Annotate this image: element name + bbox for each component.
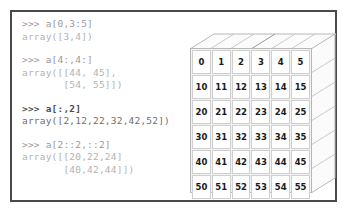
array-cell: 10 bbox=[192, 75, 211, 99]
array-cell: 24 bbox=[271, 100, 290, 124]
array-cell: 35 bbox=[291, 125, 310, 149]
array-cell: 23 bbox=[251, 100, 270, 124]
console-prompt-line: >>> a[0,3:5] bbox=[22, 18, 197, 31]
console-block: >>> a[0,3:5]array([3,4]) bbox=[22, 18, 197, 43]
console-transcript: >>> a[0,3:5]array([3,4])>>> a[4:,4:]arra… bbox=[22, 18, 197, 196]
array-cell: 45 bbox=[291, 150, 310, 174]
array-cell: 41 bbox=[212, 150, 231, 174]
array-cell: 0 bbox=[192, 50, 211, 74]
array-cell: 31 bbox=[212, 125, 231, 149]
array-cell: 5 bbox=[291, 50, 310, 74]
console-block: >>> a[:,2]array([2,12,22,32,42,52]) bbox=[22, 103, 197, 128]
array-cell: 21 bbox=[212, 100, 231, 124]
array-cell: 54 bbox=[271, 175, 290, 199]
console-prompt-line: >>> a[4:,4:] bbox=[22, 54, 197, 67]
console-block: >>> a[2::2,::2]array([[20,22,24] [40,42,… bbox=[22, 139, 197, 177]
console-output-line: [54, 55]]) bbox=[22, 79, 197, 92]
console-output-line: array([[20,22,24] bbox=[22, 151, 197, 164]
array-grid-table: 0123451011121314152021222324253031323334… bbox=[191, 49, 311, 200]
array-cube-illustration: 0123451011121314152021222324253031323334… bbox=[190, 34, 336, 194]
array-row: 404142434445 bbox=[192, 150, 310, 174]
array-cell: 43 bbox=[251, 150, 270, 174]
array-cell: 15 bbox=[291, 75, 310, 99]
console-output-line: [40,42,44]]) bbox=[22, 164, 197, 177]
console-block-spacer bbox=[22, 92, 197, 103]
array-cell: 12 bbox=[232, 75, 251, 99]
console-block-spacer bbox=[22, 128, 197, 139]
array-cell: 4 bbox=[271, 50, 290, 74]
array-cell: 25 bbox=[291, 100, 310, 124]
array-cell: 20 bbox=[192, 100, 211, 124]
console-block: >>> a[4:,4:]array([[44, 45], [54, 55]]) bbox=[22, 54, 197, 92]
array-cell: 55 bbox=[291, 175, 310, 199]
array-cell: 51 bbox=[212, 175, 231, 199]
console-output-line: array([[44, 45], bbox=[22, 67, 197, 80]
array-cell: 44 bbox=[271, 150, 290, 174]
array-cell: 34 bbox=[271, 125, 290, 149]
array-row: 101112131415 bbox=[192, 75, 310, 99]
array-cell: 42 bbox=[232, 150, 251, 174]
array-cell: 30 bbox=[192, 125, 211, 149]
array-cell: 33 bbox=[251, 125, 270, 149]
array-cell: 14 bbox=[271, 75, 290, 99]
console-output-line: array([3,4]) bbox=[22, 31, 197, 44]
array-cell: 11 bbox=[212, 75, 231, 99]
array-cell: 13 bbox=[251, 75, 270, 99]
array-row: 303132333435 bbox=[192, 125, 310, 149]
array-cell: 53 bbox=[251, 175, 270, 199]
array-cell: 2 bbox=[232, 50, 251, 74]
array-cell: 32 bbox=[232, 125, 251, 149]
array-cell: 3 bbox=[251, 50, 270, 74]
array-cell: 40 bbox=[192, 150, 211, 174]
array-cell: 1 bbox=[212, 50, 231, 74]
array-row: 202122232425 bbox=[192, 100, 310, 124]
console-prompt-line: >>> a[:,2] bbox=[22, 103, 197, 116]
array-row: 505152535455 bbox=[192, 175, 310, 199]
array-cell: 50 bbox=[192, 175, 211, 199]
array-cell: 52 bbox=[232, 175, 251, 199]
array-grid: 0123451011121314152021222324253031323334… bbox=[190, 48, 312, 193]
console-prompt-line: >>> a[2::2,::2] bbox=[22, 139, 197, 152]
figure-frame: >>> a[0,3:5]array([3,4])>>> a[4:,4:]arra… bbox=[10, 10, 337, 202]
console-output-line: array([2,12,22,32,42,52]) bbox=[22, 115, 197, 128]
array-row: 012345 bbox=[192, 50, 310, 74]
array-cell: 22 bbox=[232, 100, 251, 124]
console-block-spacer bbox=[22, 43, 197, 54]
cube-right-face bbox=[311, 34, 341, 196]
